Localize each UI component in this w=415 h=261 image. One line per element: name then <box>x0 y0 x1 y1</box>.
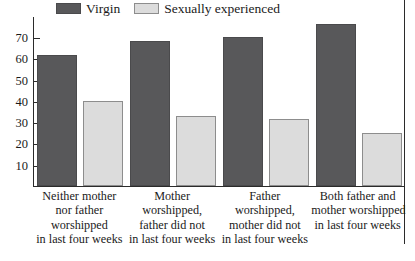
bar-group-1 <box>34 17 127 186</box>
y-tick-label: 30 <box>16 117 29 129</box>
category-label-line: nor father <box>33 203 126 217</box>
bar-group-2 <box>127 17 220 186</box>
category-label-line: father did not <box>126 218 219 232</box>
bar-series-container <box>34 17 405 186</box>
bar-experienced-4 <box>362 133 402 186</box>
legend-swatch-virgin <box>56 3 81 14</box>
bar-virgin-2 <box>130 41 170 186</box>
category-label-line: in last four weeks <box>311 218 404 232</box>
category-label-line: in last four weeks <box>33 232 126 246</box>
category-label-line: worshipped, <box>219 203 312 217</box>
legend-item-experienced: Sexually experienced <box>134 2 280 15</box>
category-label-line: Neither mother <box>33 189 126 203</box>
y-tick-label: 20 <box>16 138 29 150</box>
category-label-line: Both father and <box>311 189 404 203</box>
legend-label-virgin: Virgin <box>86 2 120 15</box>
category-label-2: Motherworshipped,father did notin last f… <box>126 189 219 247</box>
bar-experienced-1 <box>83 101 123 186</box>
y-tick-label: 10 <box>16 160 29 172</box>
bar-virgin-4 <box>316 24 356 186</box>
plot-area: 10203040506070 <box>33 17 405 187</box>
y-tick-label: 40 <box>16 96 29 108</box>
x-axis-line <box>33 186 405 187</box>
legend-item-virgin: Virgin <box>56 2 120 15</box>
category-label-line: Mother <box>126 189 219 203</box>
bar-experienced-3 <box>269 119 309 186</box>
category-label-line: mother did not <box>219 218 312 232</box>
bar-experienced-2 <box>176 116 216 186</box>
category-label-line: worshipped, <box>126 203 219 217</box>
category-label-line: mother worshipped <box>311 203 404 217</box>
category-label-4: Both father andmother worshippedin last … <box>311 189 404 232</box>
category-label-3: Fatherworshipped,mother did notin last f… <box>219 189 312 247</box>
category-label-line: worshipped <box>33 218 126 232</box>
category-label-line: in last four weeks <box>126 232 219 246</box>
y-tick-label: 60 <box>16 53 29 65</box>
legend-label-experienced: Sexually experienced <box>164 2 280 15</box>
category-label-1: Neither mothernor fatherworshippedin las… <box>33 189 126 247</box>
category-labels: Neither mothernor fatherworshippedin las… <box>33 189 405 261</box>
category-label-line: in last four weeks <box>219 232 312 246</box>
bar-chart: Virgin Sexually experienced 102030405060… <box>0 0 415 261</box>
y-tick-label: 50 <box>16 75 29 87</box>
category-label-line: Father <box>219 189 312 203</box>
bar-group-4 <box>312 17 405 186</box>
chart-legend: Virgin Sexually experienced <box>56 0 280 17</box>
legend-swatch-experienced <box>134 3 159 14</box>
bar-virgin-3 <box>223 37 263 186</box>
bar-group-3 <box>220 17 313 186</box>
y-tick-label: 70 <box>16 32 29 44</box>
bar-virgin-1 <box>37 55 77 186</box>
